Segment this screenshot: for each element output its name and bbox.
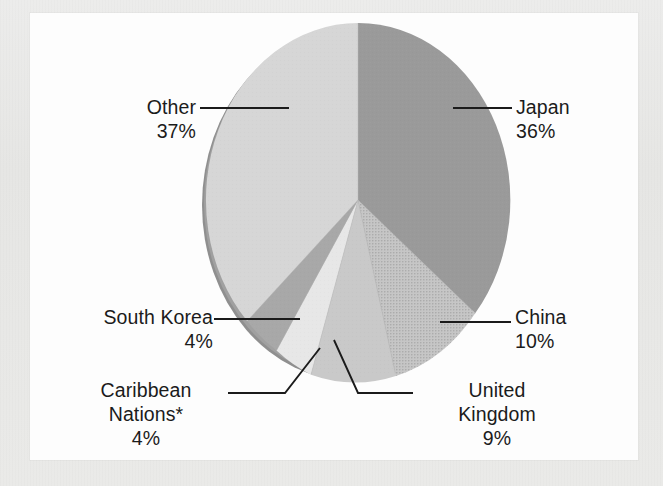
pie-label-united-kingdom-line2: Kingdom [417,402,577,426]
pie-label-china-name: China [515,305,635,329]
pie-label-japan-percent: 36% [516,119,636,143]
pie-label-caribbean-nations: Caribbean Nations* 4% [66,378,226,450]
pie-label-south-korea-percent: 4% [33,329,213,353]
pie-label-caribbean-nations-line1: Caribbean [66,378,226,402]
pie-label-united-kingdom: United Kingdom 9% [417,378,577,450]
pie-label-japan: Japan 36% [516,95,636,143]
pie-label-south-korea: South Korea 4% [33,305,213,353]
pie-label-other-percent: 37% [86,119,196,143]
pie-label-china-percent: 10% [515,329,635,353]
pie-label-japan-name: Japan [516,95,636,119]
pie-label-south-korea-name: South Korea [33,305,213,329]
pie-label-united-kingdom-percent: 9% [417,426,577,450]
pie-paper-texture [206,23,510,377]
pie-label-caribbean-nations-line2: Nations* [66,402,226,426]
pie-label-china: China 10% [515,305,635,353]
pie-label-caribbean-nations-percent: 4% [66,426,226,450]
pie-label-other-name: Other [86,95,196,119]
pie-label-united-kingdom-line1: United [417,378,577,402]
pie-label-other: Other 37% [86,95,196,143]
